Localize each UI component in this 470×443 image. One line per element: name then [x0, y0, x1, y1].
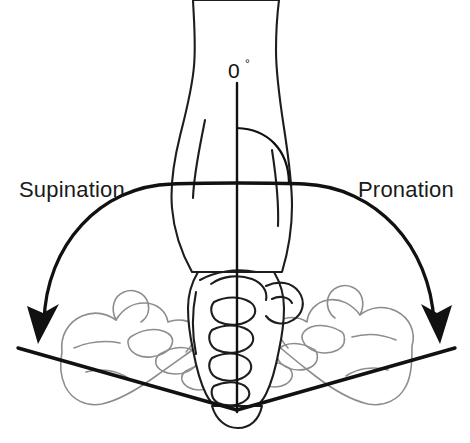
- neutral-degree-value: 0: [228, 59, 240, 82]
- forearm-outline: [171, 0, 292, 272]
- pronation-label: Pronation: [358, 177, 454, 202]
- forearm-group: [171, 0, 292, 272]
- supination-arrow-head-icon: [27, 304, 59, 344]
- neutral-degree-symbol: °: [245, 57, 250, 71]
- supination-label: Supination: [19, 177, 125, 202]
- forearm-rotation-figure: Supination Pronation 0 °: [0, 0, 470, 443]
- forearm-rotation-illustration: Supination Pronation 0 °: [0, 0, 470, 443]
- pronation-arrow-head-icon: [421, 304, 452, 344]
